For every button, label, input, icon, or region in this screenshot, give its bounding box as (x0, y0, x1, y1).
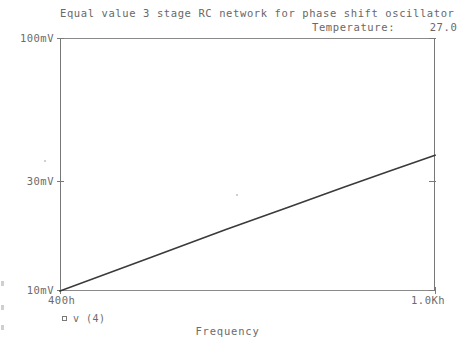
x-tick-label-1-0kh: 1.0Kh (411, 294, 445, 306)
scan-artifact (1, 281, 4, 286)
y-tick-30mv-left (57, 181, 64, 182)
y-tick-100mv-left (57, 38, 64, 39)
y-tick-label-30mv: 30mV (0, 175, 54, 187)
x-tick-label-400h: 400h (48, 294, 75, 306)
square-marker-icon (62, 316, 67, 321)
y-tick-label-10mv: 10mV (0, 284, 54, 296)
scan-artifact (1, 305, 4, 310)
chart-legend: v (4) (62, 313, 106, 324)
y-tick-100mv-right (429, 38, 436, 39)
plot-frame (60, 38, 435, 291)
x-axis-line (60, 290, 436, 291)
scan-artifact (44, 160, 46, 162)
scan-artifact (236, 194, 238, 196)
legend-label-v4: v (4) (73, 313, 106, 324)
x-tick-1-0kh (435, 287, 436, 294)
y-tick-30mv-right (429, 181, 436, 182)
temperature-annotation: Temperature: 27.0 (312, 21, 457, 33)
chart-title: Equal value 3 stage RC network for phase… (60, 7, 455, 19)
x-tick-400h (60, 287, 61, 294)
x-axis-title: Frequency (0, 325, 455, 337)
y-tick-label-100mv: 100mV (0, 32, 54, 44)
